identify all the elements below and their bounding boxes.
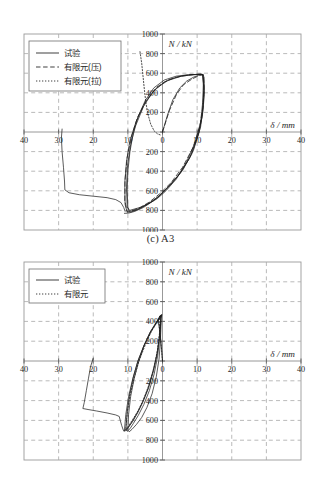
x-tick-label: 10 xyxy=(124,365,132,374)
x-axis-label: δ / mm xyxy=(270,349,295,359)
y-tick-label: 1000 xyxy=(142,258,158,267)
y-tick-label: 400 xyxy=(146,317,158,326)
figure-a3: 4030201001020304010008006004002002004006… xyxy=(0,0,321,250)
x-tick-label: 20 xyxy=(228,136,236,145)
legend-label: 有限元(拉) xyxy=(64,76,102,86)
y-tick-label: 200 xyxy=(146,148,158,157)
y-tick-label: 1000 xyxy=(142,226,158,232)
y-tick-label: 1000 xyxy=(142,456,158,465)
chart-a3: 4030201001020304010008006004002002004006… xyxy=(0,0,321,232)
chart-a4-canvas: 4030201001020304010008006004002002004006… xyxy=(0,250,321,471)
legend-label: 有限元 xyxy=(64,289,89,299)
x-tick-label: 30 xyxy=(262,136,270,145)
x-tick-label: 40 xyxy=(20,136,28,145)
legend-label: 有限元(压) xyxy=(64,62,102,72)
y-axis-label: N / kN xyxy=(168,39,193,49)
y-tick-label: 800 xyxy=(146,436,158,445)
figure-caption-a3: (c) A3 xyxy=(0,233,321,244)
y-tick-label: 200 xyxy=(146,108,158,117)
x-tick-label: 30 xyxy=(55,136,63,145)
y-tick-label: 600 xyxy=(146,69,158,78)
y-tick-label: 800 xyxy=(146,206,158,215)
y-tick-label: 200 xyxy=(146,337,158,346)
x-tick-label: 20 xyxy=(89,365,97,374)
legend-label: 试验 xyxy=(64,275,81,285)
chart-a3-canvas: 4030201001020304010008006004002002004006… xyxy=(0,0,321,232)
chart-a4: 4030201001020304010008006004002002004006… xyxy=(0,250,321,471)
x-tick-label: 40 xyxy=(20,365,28,374)
x-tick-label: 10 xyxy=(124,136,132,145)
y-tick-label: 600 xyxy=(146,187,158,196)
x-tick-label: 30 xyxy=(262,365,270,374)
x-tick-label: 0 xyxy=(160,136,164,145)
y-tick-label: 400 xyxy=(146,167,158,176)
y-tick-label: 800 xyxy=(146,50,158,59)
y-tick-label: 400 xyxy=(146,397,158,406)
y-tick-label: 600 xyxy=(146,298,158,307)
x-axis-label: δ / mm xyxy=(270,120,295,130)
y-tick-label: 400 xyxy=(146,89,158,98)
x-tick-label: 10 xyxy=(193,136,201,145)
x-tick-label: 40 xyxy=(297,136,305,145)
x-tick-label: 10 xyxy=(193,365,201,374)
y-tick-label: 200 xyxy=(146,377,158,386)
x-tick-label: 0 xyxy=(160,365,164,374)
x-tick-label: 20 xyxy=(228,365,236,374)
x-tick-label: 40 xyxy=(297,365,305,374)
legend-label: 试验 xyxy=(64,48,81,58)
y-tick-label: 1000 xyxy=(142,30,158,39)
y-tick-label: 800 xyxy=(146,278,158,287)
y-axis-label: N / kN xyxy=(168,267,193,277)
y-tick-label: 600 xyxy=(146,416,158,425)
figure-a4: 4030201001020304010008006004002002004006… xyxy=(0,250,321,491)
x-tick-label: 20 xyxy=(89,136,97,145)
x-tick-label: 30 xyxy=(55,365,63,374)
